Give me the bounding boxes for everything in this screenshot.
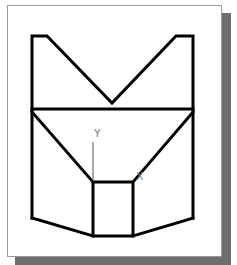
left-diagonal-line bbox=[32, 112, 93, 182]
center-box bbox=[93, 182, 133, 236]
ucs-y-label: Y bbox=[93, 127, 101, 140]
ucs-icon: Y X bbox=[93, 127, 144, 183]
bottom-left-line bbox=[32, 218, 93, 236]
ucs-x-label: X bbox=[136, 170, 144, 183]
bottom-right-line bbox=[133, 218, 193, 236]
outline-polyline bbox=[32, 36, 193, 218]
